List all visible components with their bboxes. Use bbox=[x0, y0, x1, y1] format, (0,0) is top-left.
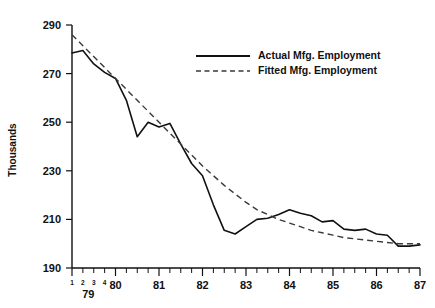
employment-line-chart: 190210230250270290 123479808182838485868… bbox=[0, 0, 435, 308]
x-axis-year-label: 84 bbox=[283, 279, 296, 291]
x-axis-year-label: 82 bbox=[196, 279, 208, 291]
x-axis-year-label: 83 bbox=[240, 279, 252, 291]
chart-canvas: 190210230250270290 123479808182838485868… bbox=[0, 0, 435, 308]
x-axis-year-label: 81 bbox=[153, 279, 165, 291]
x-axis-quarter-label: 4 bbox=[103, 279, 107, 286]
legend-label-actual: Actual Mfg. Employment bbox=[258, 49, 381, 61]
x-axis-quarter-label: 1 bbox=[70, 279, 74, 286]
x-axis-year-label: 80 bbox=[109, 279, 121, 291]
y-axis-title: Thousands bbox=[7, 123, 18, 177]
legend-label-fitted: Fitted Mfg. Employment bbox=[258, 64, 378, 76]
y-axis-tick-label: 190 bbox=[43, 262, 61, 274]
x-axis-year-label: 86 bbox=[370, 279, 382, 291]
chart-legend: Actual Mfg. EmploymentFitted Mfg. Employ… bbox=[196, 49, 381, 76]
x-axis-year-label: 79 bbox=[82, 288, 94, 300]
x-axis: 1234798081828384858687 bbox=[70, 268, 426, 300]
x-axis-quarter-label: 2 bbox=[81, 279, 85, 286]
series-line-actual bbox=[72, 51, 420, 247]
y-axis-tick-label: 230 bbox=[43, 165, 61, 177]
x-axis-year-label: 85 bbox=[327, 279, 339, 291]
y-axis-tick-label: 250 bbox=[43, 116, 61, 128]
x-axis-quarter-label: 3 bbox=[92, 279, 96, 286]
y-axis-tick-label: 270 bbox=[43, 68, 61, 80]
y-axis-tick-label: 210 bbox=[43, 213, 61, 225]
y-axis-tick-label: 290 bbox=[43, 19, 61, 31]
y-axis: 190210230250270290 bbox=[43, 19, 72, 274]
x-axis-year-label: 87 bbox=[414, 279, 426, 291]
